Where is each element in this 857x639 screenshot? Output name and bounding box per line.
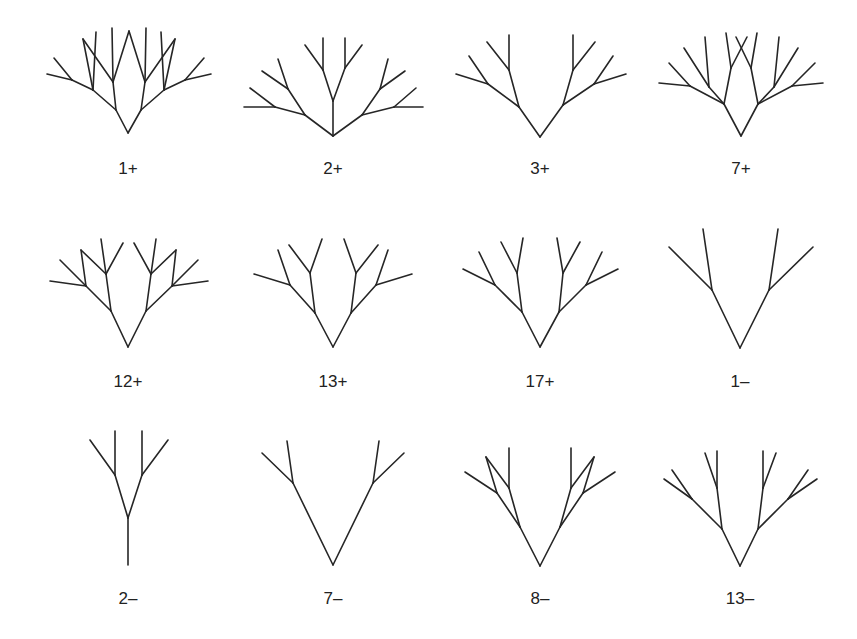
branch-line [722,529,740,566]
branch-line [486,457,509,488]
branch-line [740,290,769,348]
branch-line [571,457,594,488]
branch-line [345,45,362,68]
branch-line [351,273,356,313]
branch-line [376,274,412,285]
branch-line [72,80,93,90]
tree-label: 1– [731,372,750,391]
branch-line [520,527,540,566]
branch-line [254,274,290,285]
branch-line [559,285,586,312]
tree-label: 7– [324,589,343,608]
branch-line [788,479,817,499]
branch-line [724,104,741,136]
branch-line [151,239,156,274]
branch-line [146,286,172,311]
branch-line [278,59,288,89]
branch-line [373,441,379,483]
branch-line [557,238,563,273]
branch-line [692,499,722,529]
branch-line [540,527,560,566]
branch-line [373,453,404,483]
branch-line [172,260,198,286]
branch-line [509,488,520,527]
branch-line [142,440,168,475]
branch-line [560,493,583,527]
branch-line [106,274,111,311]
branch-line [310,239,322,273]
branch-line [586,269,618,285]
branch-line [705,453,717,488]
branch-line [517,238,523,273]
branch-line [134,243,151,274]
branch-line [86,286,111,311]
branch-line [60,260,86,286]
tree-label: 12+ [114,372,143,391]
branch-line [315,313,333,347]
branch-line [293,483,333,565]
tree-11: 8– [465,448,615,608]
branch-line [161,32,164,90]
branch-line [310,273,315,313]
branch-line [751,33,757,68]
tree-3: 3+ [456,35,626,178]
branch-line [278,250,290,285]
tree-label: 8– [531,589,550,608]
tree-5: 12+ [50,239,208,391]
branch-line [305,45,323,70]
branch-line [594,74,626,84]
branch-line [540,105,563,137]
branch-line [289,245,310,273]
branch-line [540,312,559,347]
branch-line [758,87,774,104]
branch-line [101,239,106,274]
branch-line [333,483,373,565]
branch-line [792,83,823,86]
tree-4: 7+ [659,33,823,178]
tree-6: 13+ [254,239,412,391]
branch-line [594,56,613,84]
branch-line [81,250,106,274]
tree-label: 13– [726,589,755,608]
branch-line [287,441,293,483]
branch-line [669,63,690,86]
branch-line [250,88,275,107]
tree-diagram-grid: 1+2+3+7+12+13+17+1–2–7–8–13– [0,0,857,639]
branch-line [690,86,724,104]
branch-line [356,245,378,273]
branch-line [517,273,522,312]
branch-line [469,56,488,84]
branch-line [164,80,185,90]
branch-line [50,281,86,286]
branch-line [664,479,692,499]
branch-line [573,42,595,70]
branch-line [323,70,333,101]
tree-label: 2+ [323,159,342,178]
branch-line [495,285,522,312]
branch-line [669,247,712,290]
branch-line [684,48,709,87]
tree-label: 7+ [731,159,750,178]
branch-line [726,33,731,68]
branch-line [113,82,116,110]
branch-line [463,269,495,285]
tree-8: 1– [669,229,813,391]
tree-1: 1+ [47,28,211,178]
branch-line [559,273,563,312]
branch-line [333,313,351,347]
tree-10: 7– [262,441,404,608]
branch-line [522,312,540,347]
branch-line [145,28,146,82]
branch-line [128,311,146,347]
branch-line [751,68,758,104]
branch-line [112,28,113,82]
branch-line [709,87,724,104]
branch-line [172,250,176,286]
branch-line [769,229,778,290]
branch-line [81,250,86,286]
branch-line [129,31,145,82]
branch-line [741,104,758,136]
branch-line [479,252,495,285]
branch-line [769,247,813,290]
branch-line [586,252,602,285]
